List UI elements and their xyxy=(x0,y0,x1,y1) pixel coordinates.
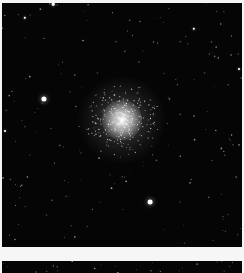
star xyxy=(238,68,240,70)
star-field-bottom xyxy=(2,261,242,273)
white-gap xyxy=(0,247,244,261)
star xyxy=(148,200,153,205)
star xyxy=(52,3,55,5)
second-image-edge xyxy=(2,261,242,273)
star-field xyxy=(2,3,242,247)
star xyxy=(4,130,6,132)
star-cluster-image xyxy=(2,3,242,247)
